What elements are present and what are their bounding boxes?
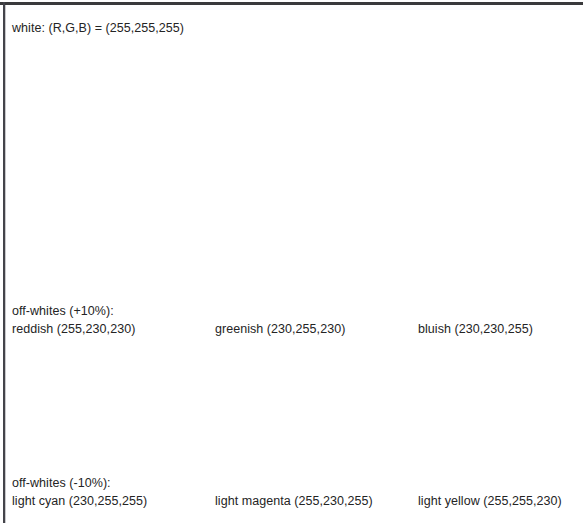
color-entry-reddish: reddish (255,230,230) (12, 322, 135, 337)
white-reference-line: white: (R,G,B) = (255,255,255) (12, 21, 184, 36)
page-border-top (0, 2, 583, 5)
color-entry-light-yellow: light yellow (255,255,230) (418, 494, 562, 509)
group-label-minus-ten: off-whites (-10%): (12, 476, 111, 491)
group-label-plus-ten: off-whites (+10%): (12, 304, 114, 319)
color-entry-light-magenta: light magenta (255,230,255) (215, 494, 373, 509)
document-page: white: (R,G,B) = (255,255,255) off-white… (0, 0, 583, 523)
color-entry-light-cyan: light cyan (230,255,255) (12, 494, 147, 509)
color-entry-bluish: bluish (230,230,255) (418, 322, 533, 337)
color-entry-greenish: greenish (230,255,230) (215, 322, 345, 337)
page-border-left-shadow (5, 5, 6, 523)
